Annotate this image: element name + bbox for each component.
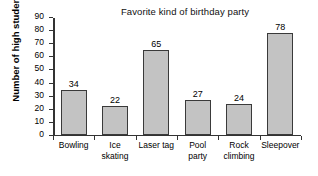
x-axis-category-line: Bowling [53, 140, 94, 151]
x-axis-category-line: party [177, 151, 218, 162]
x-axis-category-label: Sleepover [260, 140, 301, 151]
y-axis-tick-label: 70 [35, 37, 44, 47]
y-axis-tick-label: 90 [35, 11, 44, 21]
y-axis-tick: 70 [49, 43, 53, 44]
y-axis-tick: 50 [49, 69, 53, 70]
x-axis-tick [301, 136, 302, 140]
bar: 78 [267, 33, 293, 135]
x-axis-category-line: Rock [218, 140, 259, 151]
bar-value-label: 78 [275, 22, 285, 32]
bar-value-label: 34 [69, 79, 79, 89]
bar-value-label: 22 [110, 95, 120, 105]
y-axis-tick-label: 40 [35, 77, 44, 87]
bar-value-label: 65 [151, 39, 161, 49]
bar: 22 [102, 106, 128, 135]
y-axis-tick: 20 [49, 109, 53, 110]
bar-value-label: 24 [234, 93, 244, 103]
y-axis-tick: 10 [49, 122, 53, 123]
y-axis-tick: 30 [49, 96, 53, 97]
x-axis-category-label: Rockclimbing [218, 140, 259, 161]
y-axis-tick-label: 0 [39, 129, 44, 139]
y-axis-tick: 40 [49, 83, 53, 84]
y-axis-tick-label: 20 [35, 103, 44, 113]
y-axis-tick-label: 10 [35, 116, 44, 126]
y-axis-tick: 60 [49, 56, 53, 57]
y-axis-tick: 80 [49, 30, 53, 31]
x-axis-category-line: Pool [177, 140, 218, 151]
x-axis-category-line: skating [94, 151, 135, 162]
y-axis-line [53, 18, 55, 136]
x-axis-category-label: Bowling [53, 140, 94, 151]
bar: 24 [226, 104, 252, 135]
x-axis-category-line: climbing [218, 151, 259, 162]
bar: 27 [185, 100, 211, 135]
bar-value-label: 27 [193, 89, 203, 99]
x-axis-category-line: Laser tag [136, 140, 177, 151]
y-axis-tick-label: 50 [35, 63, 44, 73]
x-axis-category-line: Ice [94, 140, 135, 151]
y-axis-tick-label: 80 [35, 24, 44, 34]
bar: 34 [61, 90, 87, 135]
y-axis-tick-label: 30 [35, 90, 44, 100]
y-axis-label: Number of high students [10, 0, 21, 106]
y-axis-tick-label: 60 [35, 50, 44, 60]
x-axis-category-line: Sleepover [260, 140, 301, 151]
x-axis-category-label: Iceskating [94, 140, 135, 161]
plot-area: 010203040506070809034Bowling22Iceskating… [53, 18, 301, 136]
x-axis-category-label: Laser tag [136, 140, 177, 151]
y-axis-tick: 90 [49, 17, 53, 18]
chart-title: Favorite kind of birthday party [60, 6, 310, 17]
bar: 65 [143, 50, 169, 135]
x-axis-category-label: Poolparty [177, 140, 218, 161]
bar-chart: Favorite kind of birthday party Number o… [0, 0, 318, 176]
